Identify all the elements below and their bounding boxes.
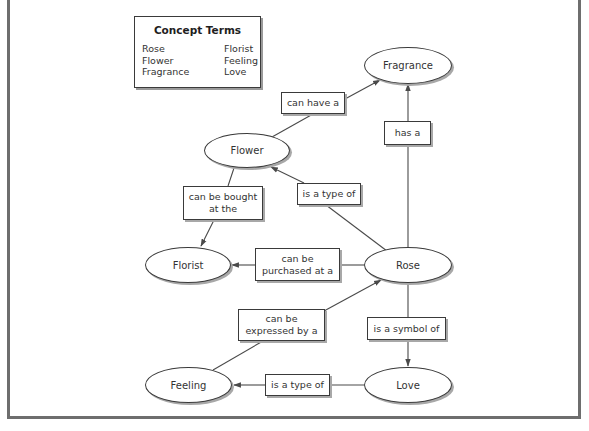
concept-node-flower: Flower: [204, 133, 290, 168]
link-text: is a type of: [303, 188, 356, 200]
edge-can-be-expressed-to-rose: [324, 280, 381, 311]
link-text: is a type of: [271, 379, 324, 391]
node-label: Fragrance: [383, 60, 433, 71]
link-text: can be purchased at a: [259, 253, 336, 277]
concept-node-love: Love: [364, 367, 452, 403]
edge-can-be-bought-to-florist: [201, 220, 214, 246]
link-label-can-be-purchased-at-a: can be purchased at a: [255, 248, 340, 281]
concept-map-edges: [0, 0, 589, 431]
concept-node-florist: Florist: [145, 247, 231, 283]
link-label-has-a: has a: [384, 121, 431, 145]
edge-flower-to-can-have-a: [272, 114, 313, 137]
link-label-can-be-expressed-by-a: can be expressed by a: [238, 309, 325, 341]
node-label: Love: [396, 380, 420, 391]
edge-is-a-type-of-to-flower: [271, 167, 304, 183]
edge-flower-to-can-be-bought: [228, 168, 234, 186]
link-text: is a symbol of: [374, 323, 440, 335]
link-label-can-be-bought-at-the: can be bought at the: [183, 186, 263, 220]
concept-node-feeling: Feeling: [145, 367, 232, 403]
link-label-can-have-a: can have a: [281, 92, 345, 114]
concept-node-fragrance: Fragrance: [364, 47, 452, 84]
node-label: Feeling: [171, 380, 207, 391]
link-label-is-a-symbol-of: is a symbol of: [367, 317, 446, 340]
node-label: Florist: [173, 260, 204, 271]
link-text: has a: [395, 127, 421, 139]
edge-can-have-a-to-fragrance: [345, 80, 380, 99]
concept-node-rose: Rose: [364, 247, 452, 283]
node-label: Flower: [230, 145, 263, 156]
edge-rose-to-is-a-type-of: [326, 205, 387, 251]
link-text: can have a: [287, 97, 339, 109]
node-label: Rose: [396, 260, 420, 271]
edge-feeling-to-can-be-expressed: [213, 341, 263, 370]
link-label-is-a-type-of-feeling: is a type of: [265, 374, 330, 396]
link-text: can be expressed by a: [242, 313, 321, 337]
link-label-is-a-type-of-flower: is a type of: [297, 183, 361, 205]
link-text: can be bought at the: [187, 191, 259, 215]
